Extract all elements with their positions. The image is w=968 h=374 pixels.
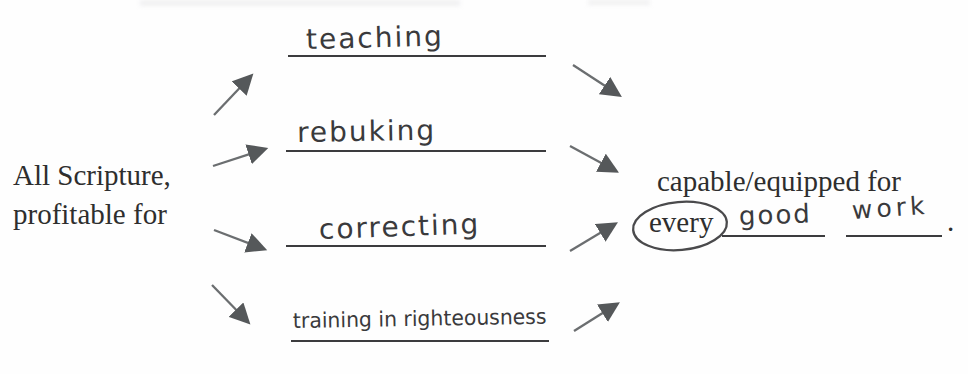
blank-line-work bbox=[846, 235, 942, 237]
sentence-period: . bbox=[947, 205, 954, 238]
blank-line-1 bbox=[288, 55, 546, 57]
handwritten-answer-good: good bbox=[738, 198, 812, 231]
handwritten-answer-training: training in righteousness bbox=[293, 305, 547, 333]
source-label-line2: profitable for bbox=[13, 198, 167, 231]
handwritten-answer-correcting: correcting bbox=[318, 207, 480, 246]
hand-drawn-circle bbox=[628, 197, 732, 257]
result-label-line1: capable/equipped for bbox=[657, 165, 901, 198]
arrow-left-to-teaching bbox=[214, 76, 251, 115]
handwritten-answer-teaching: teaching bbox=[306, 19, 445, 56]
blank-line-4 bbox=[291, 340, 549, 342]
handwritten-answer-work: work bbox=[851, 191, 929, 225]
blank-line-3 bbox=[286, 245, 546, 247]
arrow-left-to-training bbox=[212, 285, 248, 322]
handwritten-answer-rebuking: rebuking bbox=[297, 114, 437, 149]
source-label-line1: All Scripture, bbox=[13, 159, 171, 192]
arrow-rebuking-to-result bbox=[570, 146, 616, 171]
arrow-left-to-correcting bbox=[214, 230, 264, 249]
arrow-left-to-rebuking bbox=[213, 149, 265, 166]
scan-artifact bbox=[140, 0, 460, 6]
blank-line-good bbox=[722, 235, 825, 237]
arrow-training-to-result bbox=[574, 304, 617, 331]
arrow-correcting-to-result bbox=[570, 224, 615, 251]
scan-artifact bbox=[588, 0, 650, 5]
worksheet-diagram: All Scripture, profitable for teaching r… bbox=[0, 0, 968, 374]
arrow-teaching-to-result bbox=[573, 65, 619, 95]
blank-line-2 bbox=[286, 150, 546, 152]
